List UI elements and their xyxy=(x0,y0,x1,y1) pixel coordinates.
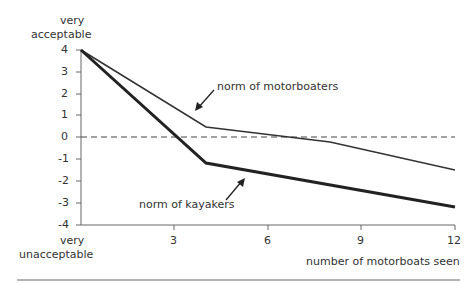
y-tick-label: -2 xyxy=(58,174,69,187)
motorboaters-line xyxy=(81,50,455,170)
y-ticks xyxy=(76,50,81,225)
kayakers-arrow xyxy=(226,178,245,200)
y-tick-label: -3 xyxy=(58,196,69,209)
kayakers-annotation: norm of kayakers xyxy=(139,198,235,211)
y-top-label-very: very xyxy=(60,14,84,27)
y-tick-label: 1 xyxy=(61,108,68,121)
x-axis-title: number of motorboats seen xyxy=(306,255,460,268)
y-tick-label: 0 xyxy=(61,130,68,143)
y-top-label-acceptable: acceptable xyxy=(31,28,91,41)
motorboaters-arrow xyxy=(195,90,214,111)
x-tick-label: 6 xyxy=(264,234,271,247)
y-tick-label: 2 xyxy=(61,87,68,100)
y-tick-label: 4 xyxy=(61,43,68,56)
y-tick-label: -1 xyxy=(58,152,69,165)
y-bottom-label-very: very xyxy=(60,234,84,247)
y-tick-label: 3 xyxy=(61,65,68,78)
x-tick-label: 3 xyxy=(170,234,177,247)
motorboaters-annotation: norm of motorboaters xyxy=(217,80,338,93)
y-bottom-label-unacceptable: unacceptable xyxy=(19,248,93,261)
x-tick-label: 12 xyxy=(447,234,461,247)
kayakers-line xyxy=(81,50,455,207)
y-tick-label: -4 xyxy=(58,218,69,231)
x-tick-label: 9 xyxy=(357,234,364,247)
x-ticks xyxy=(174,225,455,230)
